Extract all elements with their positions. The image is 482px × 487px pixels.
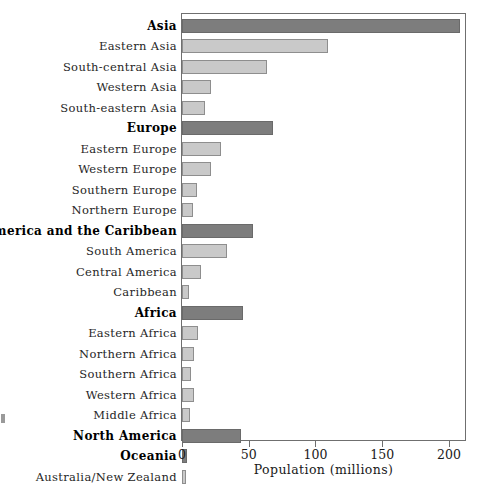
bar-row: Southern Europe <box>0 180 482 201</box>
bar <box>182 244 227 258</box>
bar <box>182 285 189 299</box>
bar-row: Europe <box>0 118 482 139</box>
bar <box>182 326 198 340</box>
bar-row-label: Southern Europe <box>72 180 177 201</box>
bar-row: South-central Asia <box>0 57 482 78</box>
bar-row: Caribbean <box>0 282 482 303</box>
bar <box>182 265 201 279</box>
x-axis-tick-label: 0 <box>152 447 212 462</box>
bar-row-label: Northern Europe <box>71 200 177 221</box>
bar-row-label: South America <box>86 241 177 262</box>
bar-row-label: Central America <box>76 262 177 283</box>
bar-row-label: Asia <box>147 16 177 37</box>
bar-row-label: Northern Africa <box>79 344 177 365</box>
bar-row: Eastern Asia <box>0 36 482 57</box>
bar <box>182 101 205 115</box>
bar <box>182 121 273 135</box>
bar-row: Western Asia <box>0 77 482 98</box>
bar <box>182 224 253 238</box>
bar-row: South America <box>0 241 482 262</box>
bar-row-label: South-eastern Asia <box>60 98 177 119</box>
x-axis-tick-label: 50 <box>219 447 279 462</box>
bar <box>182 162 211 176</box>
x-axis-tick-label: 200 <box>419 447 479 462</box>
bar <box>182 80 211 94</box>
bar-row: Middle Africa <box>0 405 482 426</box>
bar-row-label: Australia/New Zealand <box>36 467 177 487</box>
bar-row-label: Western Asia <box>96 77 177 98</box>
bar <box>182 39 328 53</box>
bar-row-label: Europe <box>127 118 177 139</box>
bar-row-label: Eastern Europe <box>81 139 177 160</box>
bar-row: Northern Africa <box>0 344 482 365</box>
bar-row: Northern Europe <box>0 200 482 221</box>
bar <box>182 306 243 320</box>
bar <box>182 60 267 74</box>
bar-row: South-eastern Asia <box>0 98 482 119</box>
bar-row-label: Southern Africa <box>79 364 177 385</box>
x-axis-tick-label: 150 <box>352 447 412 462</box>
bar <box>182 408 190 422</box>
bar-row-label: Eastern Africa <box>88 323 177 344</box>
bar-row: Western Europe <box>0 159 482 180</box>
bar-row: Western Africa <box>0 385 482 406</box>
bar <box>182 183 197 197</box>
bar <box>182 367 191 381</box>
left-edge-artifact <box>1 414 5 423</box>
x-axis-title: Population (millions) <box>181 462 466 477</box>
bar-row-label: South-central Asia <box>63 57 177 78</box>
bar-row-label: Africa <box>135 303 177 324</box>
bar-row-label: Latin America and the Caribbean <box>0 221 177 242</box>
bar-row-label: Western Europe <box>78 159 177 180</box>
bar-row: Latin America and the Caribbean <box>0 221 482 242</box>
bar-row-label: Caribbean <box>113 282 177 303</box>
bar <box>182 142 221 156</box>
bar <box>182 19 460 33</box>
bar-row: Eastern Africa <box>0 323 482 344</box>
bar <box>182 388 194 402</box>
bar-row: Asia <box>0 16 482 37</box>
x-axis-tick-label: 100 <box>285 447 345 462</box>
bar-row-label: Western Africa <box>86 385 177 406</box>
bar <box>182 203 193 217</box>
bar-row: Central America <box>0 262 482 283</box>
bar-row-label: Eastern Asia <box>99 36 177 57</box>
bar-row: Southern Africa <box>0 364 482 385</box>
bar-row: Africa <box>0 303 482 324</box>
bar-row: Eastern Europe <box>0 139 482 160</box>
bar <box>182 347 194 361</box>
bar-row-label: Middle Africa <box>93 405 177 426</box>
x-axis-tick-labels: 050100150200 <box>0 447 482 463</box>
